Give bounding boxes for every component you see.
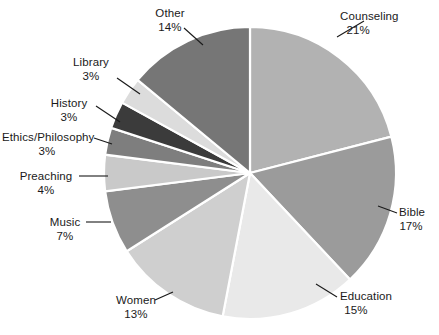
- slice-label-library-name: Library: [67, 56, 115, 70]
- slice-label-women-value: 13%: [110, 308, 162, 322]
- slice-label-other: Other 14%: [150, 7, 190, 34]
- slice-label-education-name: Education: [340, 290, 392, 304]
- slice-label-preaching-value: 4%: [16, 184, 76, 198]
- slice-label-history: History 3%: [45, 97, 93, 124]
- slice-label-music: Music 7%: [46, 216, 84, 243]
- slice-label-history-value: 3%: [45, 111, 93, 125]
- slice-label-library-value: 3%: [67, 70, 115, 84]
- slice-label-counseling-name: Counseling: [340, 10, 399, 24]
- pie-slices-group: [104, 27, 396, 319]
- slice-label-music-name: Music: [46, 216, 84, 230]
- slice-label-counseling-value: 21%: [340, 24, 399, 38]
- slice-label-bible: Bible 17%: [399, 206, 425, 233]
- slice-label-music-value: 7%: [46, 230, 84, 244]
- slice-label-preaching-name: Preaching: [16, 170, 76, 184]
- slice-label-history-name: History: [45, 97, 93, 111]
- slice-label-library: Library 3%: [67, 56, 115, 83]
- slice-label-women-name: Women: [110, 294, 162, 308]
- slice-label-ethics-philosophy-name: Ethics/Philosophy: [2, 131, 92, 145]
- slice-label-ethics-philosophy: Ethics/Philosophy 3%: [2, 131, 92, 158]
- slice-label-women: Women 13%: [110, 294, 162, 321]
- pie-chart-canvas: [0, 0, 439, 335]
- pie-chart: Counseling 21% Bible 17% Education 15% W…: [0, 0, 439, 335]
- slice-label-ethics-philosophy-value: 3%: [2, 145, 92, 159]
- slice-label-other-value: 14%: [150, 21, 190, 35]
- slice-label-bible-value: 17%: [399, 220, 425, 234]
- slice-label-counseling: Counseling 21%: [340, 10, 399, 37]
- slice-label-education: Education 15%: [340, 290, 392, 317]
- slice-label-bible-name: Bible: [399, 206, 425, 220]
- slice-label-preaching: Preaching 4%: [16, 170, 76, 197]
- slice-label-education-value: 15%: [340, 304, 392, 318]
- slice-label-other-name: Other: [150, 7, 190, 21]
